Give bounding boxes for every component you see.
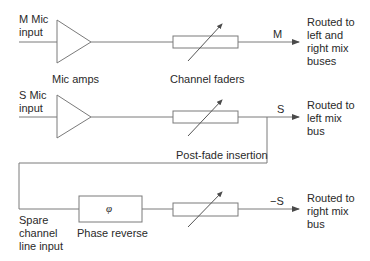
phi-symbol: φ: [106, 202, 112, 215]
s-signal-label: S: [277, 103, 284, 116]
s-amplifier-icon: [57, 95, 91, 138]
minus-s-signal-label: −S: [270, 195, 284, 208]
spare-destination-label: Routed to right mix bus: [307, 192, 355, 231]
post-fade-insertion-label: Post-fade insertion: [176, 149, 268, 162]
s-destination-label: Routed to left mix bus: [307, 99, 355, 138]
mic-amps-label: Mic amps: [52, 73, 99, 86]
m-amplifier-icon: [57, 20, 91, 63]
channel-faders-label: Channel faders: [170, 73, 245, 86]
spare-fader-icon: [173, 192, 238, 227]
m-fader-icon: [173, 24, 238, 61]
m-input-label: M Mic input: [19, 13, 48, 39]
s-input-label: S Mic input: [19, 89, 47, 115]
m-signal-label: M: [273, 28, 282, 41]
s-fader-icon: [173, 100, 238, 136]
m-destination-label: Routed to left and right mix buses: [307, 16, 355, 68]
spare-input-label: Spare channel line input: [19, 214, 63, 253]
post-fade-insertion-line: [19, 117, 267, 209]
phase-reverse-label: Phase reverse: [77, 227, 148, 240]
